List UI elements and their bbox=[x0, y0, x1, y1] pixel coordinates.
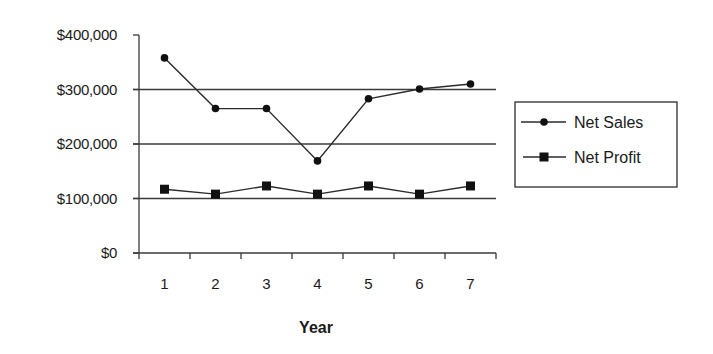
axes bbox=[133, 35, 496, 259]
x-tick-label: 2 bbox=[211, 275, 219, 292]
x-tick-label: 4 bbox=[313, 275, 321, 292]
data-point-square bbox=[415, 190, 424, 199]
data-point-circle bbox=[365, 95, 373, 103]
square-marker-icon bbox=[540, 153, 549, 162]
data-point-square bbox=[466, 181, 475, 190]
series-net-sales bbox=[161, 54, 475, 165]
data-point-circle bbox=[467, 80, 475, 88]
y-tick-label: $0 bbox=[101, 244, 117, 261]
circle-marker-icon bbox=[540, 118, 548, 126]
y-tick-label: $100,000 bbox=[57, 190, 117, 207]
x-tick-label: 7 bbox=[466, 275, 474, 292]
data-point-square bbox=[160, 185, 169, 194]
x-tick-label: 1 bbox=[160, 275, 168, 292]
x-tick-label: 5 bbox=[364, 275, 372, 292]
data-point-square bbox=[262, 181, 271, 190]
data-point-square bbox=[211, 190, 220, 199]
data-point-circle bbox=[263, 105, 271, 113]
data-point-circle bbox=[416, 85, 424, 93]
data-series bbox=[160, 54, 475, 199]
y-tick-label: $400,000 bbox=[57, 26, 117, 43]
gridlines bbox=[133, 90, 496, 199]
y-tick-label: $300,000 bbox=[57, 81, 117, 98]
series-line bbox=[165, 58, 471, 161]
data-point-square bbox=[313, 190, 322, 199]
y-axis-ticks: $0$100,000$200,000$300,000$400,000 bbox=[57, 26, 139, 261]
x-axis-title: Year bbox=[299, 319, 333, 336]
data-point-square bbox=[364, 181, 373, 190]
line-chart: $0$100,000$200,000$300,000$400,000 12345… bbox=[0, 0, 713, 354]
x-axis-ticks: 1234567 bbox=[160, 253, 496, 292]
data-point-circle bbox=[314, 157, 322, 165]
legend-label: Net Sales bbox=[574, 114, 643, 131]
data-point-circle bbox=[212, 105, 220, 113]
x-tick-label: 6 bbox=[415, 275, 423, 292]
y-tick-label: $200,000 bbox=[57, 135, 117, 152]
legend-label: Net Profit bbox=[574, 149, 641, 166]
series-net-profit bbox=[160, 181, 475, 198]
x-tick-label: 3 bbox=[262, 275, 270, 292]
data-point-circle bbox=[161, 54, 169, 62]
legend: Net Sales Net Profit bbox=[515, 102, 677, 187]
